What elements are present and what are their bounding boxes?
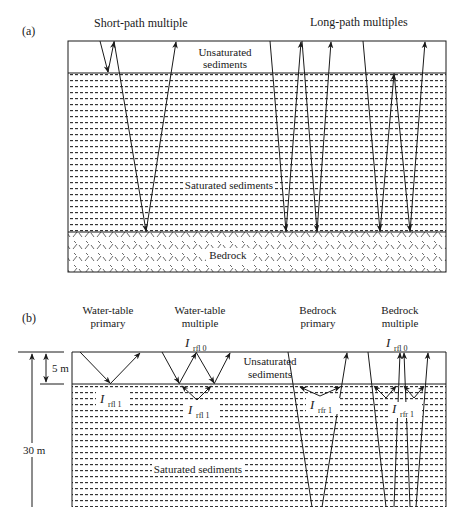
- rfr1-sub: rfr 1: [400, 410, 414, 419]
- I-symbol: I: [99, 391, 105, 406]
- wt-multiple-title2: multiple: [182, 317, 219, 329]
- unsaturated-label-b2: sediments: [248, 368, 292, 380]
- dimension-5m: 5 m: [52, 362, 69, 374]
- rfl0-sub: rfl 0: [193, 344, 207, 353]
- long-path-title: Long-path multiples: [310, 15, 408, 29]
- I-symbol: I: [187, 402, 193, 417]
- br-primary-title1: Bedrock: [299, 304, 337, 316]
- rfl0-sub: rfl 0: [394, 344, 408, 353]
- panel-a-label: (a): [22, 24, 35, 38]
- wt-primary-title1: Water-table: [83, 304, 134, 316]
- bedrock-label-a: Bedrock: [209, 249, 247, 261]
- dimension-30m: 30 m: [23, 444, 46, 456]
- rfl1-sub: rfl 1: [108, 400, 122, 409]
- I-symbol: I: [391, 401, 397, 416]
- unsaturated-label-a2: sediments: [203, 58, 247, 70]
- I-symbol: I: [385, 335, 391, 350]
- dimension-markers: [18, 352, 64, 507]
- I-symbol: I: [309, 397, 315, 412]
- geophysics-diagram: (a) Short-path multiple Long-path multip…: [0, 0, 470, 507]
- I-symbol: I: [184, 335, 190, 350]
- rfl1-sub: rfl 1: [196, 411, 210, 420]
- saturated-label-a: Saturated sediments: [185, 179, 273, 191]
- wt-primary-title2: primary: [91, 317, 126, 329]
- br-multiple-title2: multiple: [382, 317, 419, 329]
- br-primary-title2: primary: [301, 317, 336, 329]
- br-multiple-title1: Bedrock: [381, 304, 419, 316]
- bedrock-layer-a: [68, 232, 446, 272]
- unsaturated-label-a1: Unsaturated: [198, 46, 252, 58]
- panel-b: (b) Water-table primary Water-table mult…: [18, 304, 446, 507]
- panel-a: (a) Short-path multiple Long-path multip…: [22, 15, 446, 272]
- rfr1-sub: rfr 1: [318, 406, 332, 415]
- saturated-layer-a: [68, 73, 446, 232]
- saturated-label-b: Saturated sediments: [154, 463, 242, 475]
- panel-b-label: (b): [22, 311, 36, 325]
- short-path-title: Short-path multiple: [94, 16, 188, 30]
- wt-multiple-title1: Water-table: [175, 304, 226, 316]
